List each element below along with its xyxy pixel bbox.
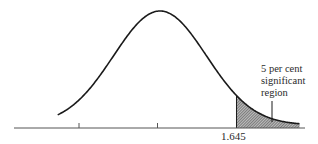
annotation-line-2: significant	[261, 75, 305, 86]
normal-distribution-chart: 1.645 5 per cent significant region	[0, 0, 318, 144]
critical-value-label: 1.645	[221, 130, 246, 142]
annotation-line-3: region	[261, 87, 289, 98]
annotation-line-1: 5 per cent	[261, 63, 302, 74]
